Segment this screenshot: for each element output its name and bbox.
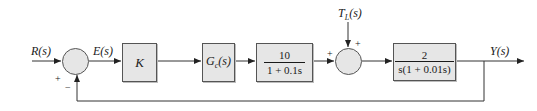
actuator-numerator: 10 — [276, 49, 293, 61]
sum2-left-plus-sign: + — [327, 49, 333, 59]
disturbance-label: TL(s) — [338, 7, 362, 22]
controller-text: Gc(s) — [206, 54, 231, 70]
actuator-block: 10 1 + 0.1s — [256, 43, 313, 82]
controller-block: Gc(s) — [202, 43, 235, 82]
output-label: Y(s) — [490, 45, 509, 57]
sum1-minus-sign: − — [65, 83, 71, 93]
plant-fraction: 2 s(1 + 0.01s) — [395, 49, 453, 75]
plant-numerator: 2 — [419, 49, 431, 61]
summing-junction-1 — [62, 48, 89, 75]
block-diagram: + − + + R(s) E(s) TL(s) Y(s) K Gc(s) 10 … — [0, 0, 537, 111]
gain-text: K — [135, 55, 144, 71]
plant-denominator: s(1 + 0.01s) — [395, 61, 453, 75]
sum1-plus-sign: + — [55, 74, 61, 84]
sum2-top-plus-sign: + — [355, 39, 361, 49]
plant-block: 2 s(1 + 0.01s) — [393, 43, 456, 81]
error-label: E(s) — [93, 45, 113, 57]
actuator-denominator: 1 + 0.1s — [264, 62, 305, 76]
input-label: R(s) — [31, 45, 51, 57]
gain-block: K — [122, 43, 157, 82]
summing-junction-2 — [335, 48, 362, 75]
actuator-fraction: 10 1 + 0.1s — [264, 49, 305, 75]
